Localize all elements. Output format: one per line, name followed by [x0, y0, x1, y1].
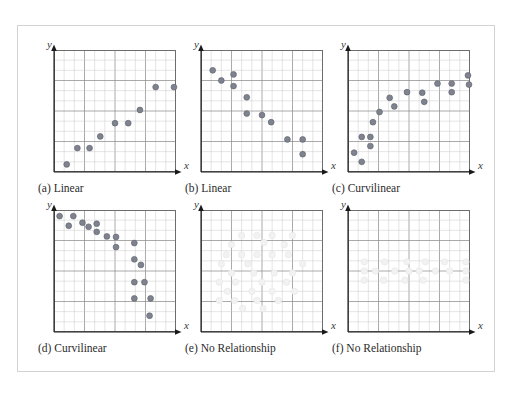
data-point — [86, 224, 92, 230]
scatter-panel-d: y x (d) Curvilinear — [28, 196, 179, 356]
data-point — [138, 262, 144, 268]
data-point — [416, 268, 422, 274]
data-point — [367, 143, 373, 149]
data-point — [228, 241, 234, 247]
data-point — [231, 297, 237, 303]
plot-area-b: y x — [193, 42, 323, 172]
data-point — [269, 288, 275, 294]
data-point — [435, 81, 441, 87]
plot-area-e: y x — [193, 202, 323, 332]
data-point — [97, 134, 103, 140]
data-point — [367, 134, 373, 140]
data-point — [112, 120, 118, 126]
data-point — [147, 313, 153, 319]
data-point — [392, 268, 398, 274]
data-point — [372, 268, 378, 274]
data-point — [254, 232, 260, 238]
data-point — [422, 259, 428, 265]
scatter-svg-a — [46, 42, 184, 180]
data-point — [289, 270, 295, 276]
scatter-svg-f — [340, 202, 478, 340]
scatter-panel-e: y x (e) No Relationship — [175, 196, 326, 356]
panel-caption-c: (c) Curvilinear — [332, 182, 400, 194]
data-point — [74, 145, 80, 151]
data-point — [446, 268, 452, 274]
panel-caption-e: (e) No Relationship — [185, 342, 276, 354]
data-point — [361, 259, 367, 265]
data-point — [361, 277, 367, 283]
data-point — [391, 104, 397, 110]
data-point — [239, 305, 245, 311]
data-point — [269, 252, 275, 258]
panel-caption-b: (b) Linear — [185, 182, 231, 194]
plot-area-a: y x — [46, 42, 176, 172]
data-point — [404, 259, 410, 265]
data-point — [281, 241, 287, 247]
data-point — [231, 72, 237, 78]
data-point — [224, 288, 230, 294]
panel-caption-a: (a) Linear — [38, 182, 84, 194]
plot-area-c: y x — [340, 42, 470, 172]
data-point — [245, 261, 251, 267]
scatter-panel-f: y x (f) No Relationship — [322, 196, 473, 356]
data-point — [232, 279, 238, 285]
data-point — [268, 119, 274, 125]
data-point — [244, 94, 250, 100]
scatter-svg-d — [46, 202, 184, 340]
data-point — [113, 234, 119, 240]
data-point — [125, 120, 131, 126]
plot-box-b — [201, 50, 323, 172]
data-point — [104, 234, 110, 240]
plot-box-f — [348, 210, 470, 332]
data-point — [260, 305, 266, 311]
data-point — [249, 288, 255, 294]
data-point — [113, 244, 119, 250]
data-point — [463, 277, 469, 283]
data-point — [300, 151, 306, 157]
data-point — [80, 220, 86, 226]
plot-area-d: y x — [46, 202, 176, 332]
scatter-panel-b: y x (b) Linear — [175, 36, 326, 196]
plot-box-e — [201, 210, 323, 332]
x-axis-label: x — [478, 160, 483, 171]
scatter-svg-b — [193, 42, 331, 180]
plot-box-d — [54, 210, 176, 332]
data-point — [380, 277, 386, 283]
data-point — [244, 111, 250, 117]
data-point — [259, 112, 265, 118]
panel-caption-f: (f) No Relationship — [332, 342, 421, 354]
data-point — [223, 252, 229, 258]
data-point — [269, 232, 275, 238]
data-point — [94, 221, 100, 227]
data-point — [381, 259, 387, 265]
panel-caption-d: (d) Curvilinear — [38, 342, 107, 354]
data-point — [261, 239, 267, 245]
data-point — [228, 270, 234, 276]
data-point — [419, 90, 425, 96]
data-point — [283, 279, 289, 285]
data-point — [251, 270, 257, 276]
data-point — [142, 279, 148, 285]
data-point — [231, 83, 237, 89]
data-point — [406, 268, 412, 274]
data-point — [218, 261, 224, 267]
plot-box-a — [54, 50, 176, 172]
scatter-svg-e — [193, 202, 331, 340]
data-point — [70, 213, 76, 219]
scatter-svg-c — [340, 42, 478, 180]
data-point — [359, 134, 365, 140]
data-point — [299, 261, 305, 267]
data-point — [420, 277, 426, 283]
scatter-panel-c: y x (c) Curvilinear — [322, 36, 473, 196]
scatter-panel-a: y x (a) Linear — [28, 36, 179, 196]
data-point — [300, 137, 306, 143]
data-point — [275, 297, 281, 303]
data-point — [57, 213, 63, 219]
data-point — [238, 252, 244, 258]
data-point — [291, 288, 297, 294]
scatterplot-panel-grid: y x (a) Linear y x (b) Linear y x (c) Cu… — [18, 26, 494, 371]
data-point — [210, 67, 216, 73]
data-point — [254, 297, 260, 303]
data-point — [285, 252, 291, 258]
data-point — [289, 232, 295, 238]
